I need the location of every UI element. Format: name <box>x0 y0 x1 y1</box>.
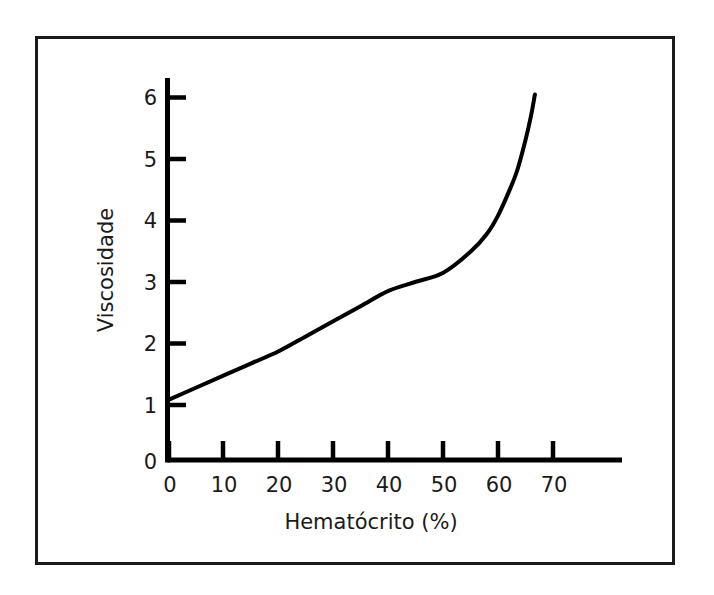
y-tick-label-4: 4 <box>144 209 157 233</box>
y-tick-label-5: 5 <box>144 148 157 172</box>
viscosity-hematocrit-chart: 0 1 2 3 4 5 6 Viscosidade 0 10 20 <box>0 0 714 595</box>
x-tick-label-0: 0 <box>163 473 176 497</box>
x-tick-label-20: 20 <box>266 473 293 497</box>
x-tick-label-70: 70 <box>541 473 568 497</box>
x-tick-label-10: 10 <box>211 473 238 497</box>
x-tick-label-60: 60 <box>486 473 513 497</box>
x-tick-label-40: 40 <box>376 473 403 497</box>
y-tick-label-6: 6 <box>144 86 157 110</box>
y-axis-title: Viscosidade <box>94 208 118 332</box>
x-tick-label-30: 30 <box>321 473 348 497</box>
x-tick-label-50: 50 <box>431 473 458 497</box>
figure-root: 0 1 2 3 4 5 6 Viscosidade 0 10 20 <box>0 0 714 595</box>
y-tick-label-2: 2 <box>144 332 157 356</box>
y-tick-label-1: 1 <box>144 394 157 418</box>
y-tick-label-3: 3 <box>144 271 157 295</box>
x-axis-title: Hematócrito (%) <box>284 510 457 534</box>
y-tick-label-0: 0 <box>144 450 157 474</box>
